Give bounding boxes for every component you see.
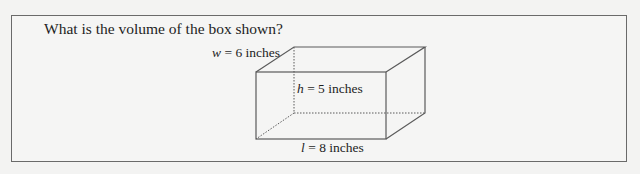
width-label: w = 6 inches	[212, 45, 280, 61]
length-label: l = 8 inches	[301, 140, 364, 156]
height-label: h = 5 inches	[297, 81, 363, 97]
right-face	[386, 47, 425, 139]
top-face	[256, 47, 425, 72]
